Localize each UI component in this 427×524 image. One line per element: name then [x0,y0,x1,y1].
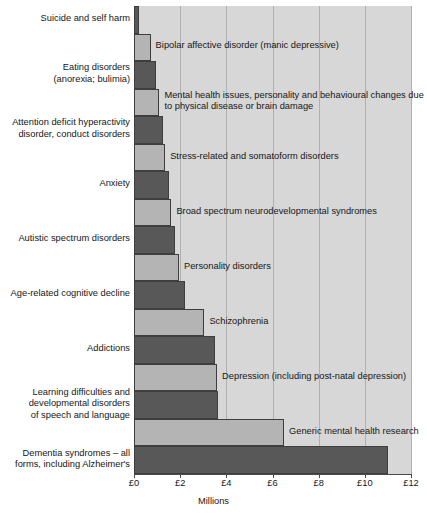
bar-label: Depression (including post-natal depress… [222,371,406,383]
x-axis-title: Millions [0,496,427,506]
x-axis-tick-mark [226,474,227,478]
bar-row [134,254,179,282]
bar-row [134,34,151,62]
bar-row [134,391,218,419]
bar-row [134,171,169,199]
bar [134,226,175,254]
bar [134,391,218,419]
bar-row [134,281,185,309]
bar-label: Stress-related and somatoform disorders [170,151,338,163]
bar-label: Dementia syndromes – all forms, includin… [0,448,130,471]
bar-label: Learning difficulties and developmental … [0,387,130,422]
bar-row [134,116,163,144]
bar-label: Personality disorders [184,261,271,273]
bar-row [134,309,204,337]
bar-chart: Suicide and self harmBipolar affective d… [0,0,427,524]
bar-label: Bipolar affective disorder (manic depres… [156,40,339,52]
bar-label: Age-related cognitive decline [0,288,130,300]
bar [134,89,159,117]
x-axis-tick-label: £10 [357,478,373,488]
bar-label: Mental health issues, personality and be… [164,90,423,113]
x-axis-tick-label: £0 [129,478,139,488]
x-axis-tick-label: £6 [267,478,277,488]
bar-row [134,199,171,227]
x-axis-tick-labels: £0£2£4£6£8£10£12 [0,478,427,492]
bar [134,34,151,62]
bars-container: Suicide and self harmBipolar affective d… [0,0,427,524]
bar [134,254,179,282]
bar-label: Generic mental health research [289,426,419,438]
x-axis-tick-label: £12 [403,478,419,488]
bar-row [134,6,139,34]
bar [134,199,171,227]
bar-label: Broad spectrum neurodevelopmental syndro… [176,206,377,218]
x-axis-tick-mark [180,474,181,478]
bar-label: Schizophrenia [209,316,268,328]
bar [134,336,215,364]
bar-row [134,446,388,474]
bar [134,281,185,309]
x-axis-tick-mark [411,474,412,478]
x-axis-tick-mark [273,474,274,478]
x-axis-tick-label: £4 [221,478,231,488]
bar-label: Anxiety [0,178,130,190]
bar-row [134,336,215,364]
bar-row [134,364,217,392]
bar-label: Autistic spectrum disorders [0,233,130,245]
bar [134,116,163,144]
bar-row [134,61,156,89]
bar-label: Suicide and self harm [0,13,130,25]
bar [134,61,156,89]
bar-row [134,89,159,117]
x-axis-tick-mark [365,474,366,478]
bar [134,446,388,474]
x-axis-tick-mark [319,474,320,478]
bar-label: Addictions [0,343,130,355]
x-axis-tick-label: £8 [313,478,323,488]
bar-row [134,226,175,254]
bar [134,364,217,392]
x-axis-tick-mark [134,474,135,478]
x-axis-tick-label: £2 [175,478,185,488]
bar-label: Attention deficit hyperactivity disorder… [0,117,130,140]
bar-row [134,419,284,447]
bar [134,171,169,199]
bar-row [134,144,165,172]
bar [134,6,139,34]
bar [134,144,165,172]
bar [134,309,204,337]
bar-label: Eating disorders (anorexia; bulimia) [0,62,130,85]
bar [134,419,284,447]
